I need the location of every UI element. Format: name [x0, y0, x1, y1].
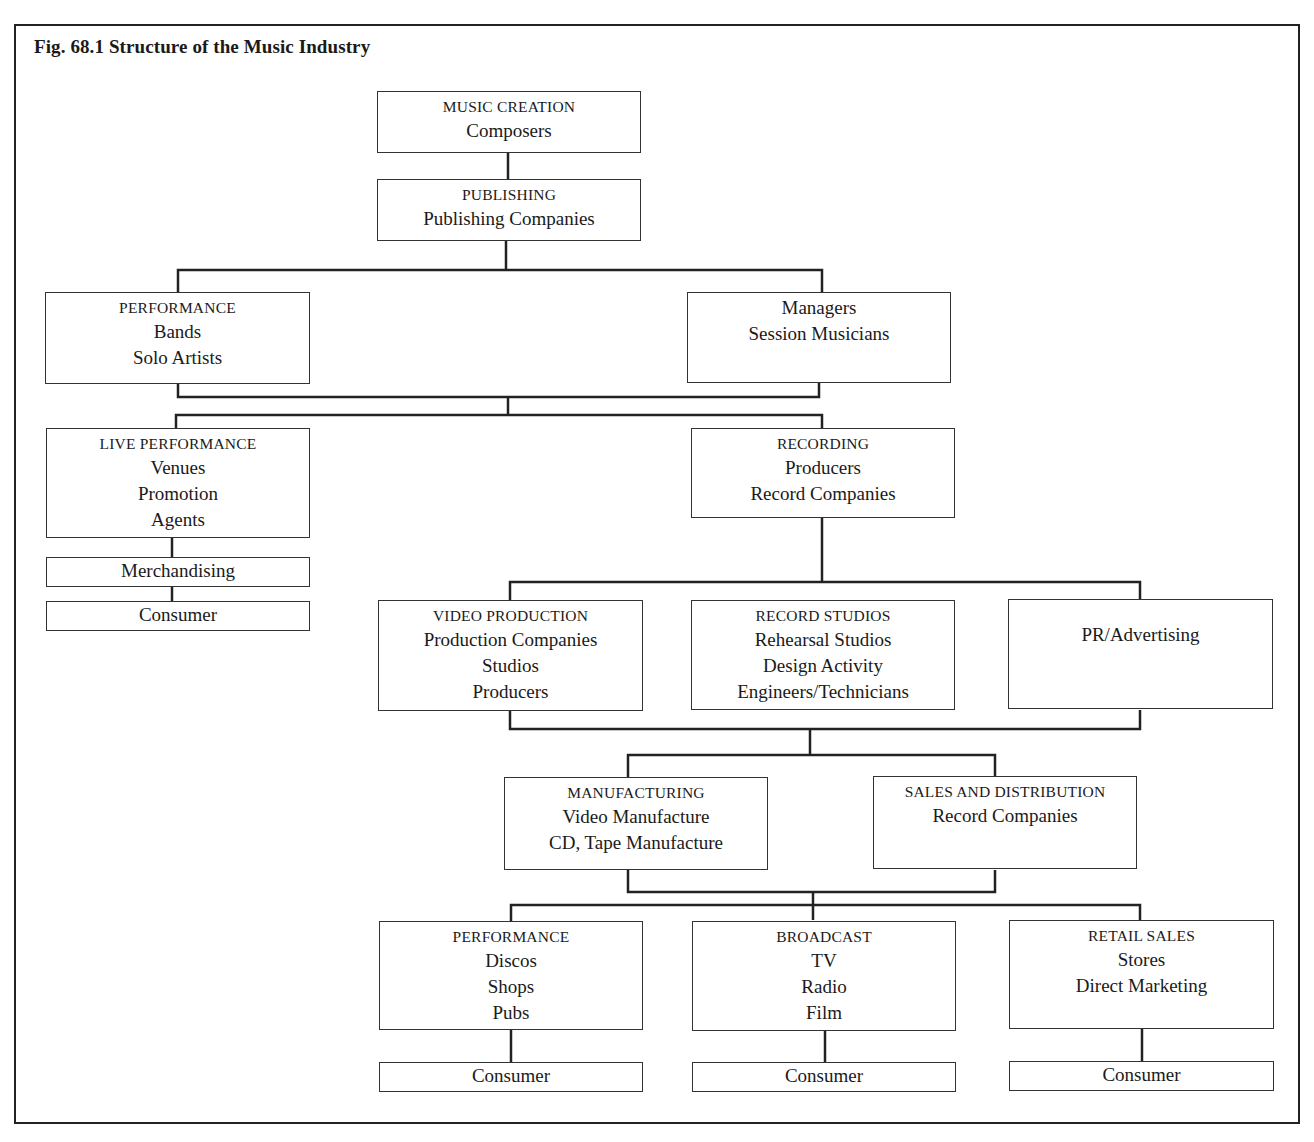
node-item: Pubs [380, 1000, 642, 1026]
node-retail-sales: RETAIL SALES Stores Direct Marketing [1009, 920, 1274, 1029]
node-item: Consumer [693, 1063, 955, 1089]
node-manufacturing: MANUFACTURING Video Manufacture CD, Tape… [504, 777, 768, 870]
node-performance-venues: PERFORMANCE Discos Shops Pubs [379, 921, 643, 1030]
node-item: Direct Marketing [1010, 973, 1273, 999]
node-performance-artists: PERFORMANCE Bands Solo Artists [45, 292, 310, 384]
node-heading: PERFORMANCE [46, 297, 309, 319]
node-item: Consumer [380, 1063, 642, 1089]
node-video-production: VIDEO PRODUCTION Production Companies St… [378, 600, 643, 711]
node-consumer-live: Consumer [46, 601, 310, 631]
node-heading: MANUFACTURING [505, 782, 767, 804]
node-heading: SALES AND DISTRIBUTION [874, 781, 1136, 803]
node-record-studios: RECORD STUDIOS Rehearsal Studios Design … [691, 600, 955, 710]
node-recording: RECORDING Producers Record Companies [691, 428, 955, 518]
node-item: Session Musicians [688, 321, 950, 347]
node-broadcast: BROADCAST TV Radio Film [692, 921, 956, 1031]
node-heading: VIDEO PRODUCTION [379, 605, 642, 627]
node-item: Consumer [1010, 1062, 1273, 1088]
node-item: Venues [47, 455, 309, 481]
node-heading: PERFORMANCE [380, 926, 642, 948]
node-item: Agents [47, 507, 309, 533]
node-item: Record Companies [692, 481, 954, 507]
node-sales-distribution: SALES AND DISTRIBUTION Record Companies [873, 776, 1137, 869]
node-heading: RECORD STUDIOS [692, 605, 954, 627]
node-item: Solo Artists [46, 345, 309, 371]
node-consumer-performance: Consumer [379, 1062, 643, 1092]
node-item: Bands [46, 319, 309, 345]
node-item: Radio [693, 974, 955, 1000]
node-heading: MUSIC CREATION [378, 96, 640, 118]
node-item: Record Companies [874, 803, 1136, 829]
node-item: PR/Advertising [1009, 622, 1272, 648]
node-item: Rehearsal Studios [692, 627, 954, 653]
node-music-creation: MUSIC CREATION Composers [377, 91, 641, 153]
node-item: Discos [380, 948, 642, 974]
node-item: Production Companies [379, 627, 642, 653]
node-item: Shops [380, 974, 642, 1000]
node-item: Managers [688, 295, 950, 321]
node-merchandising: Merchandising [46, 557, 310, 587]
node-item: CD, Tape Manufacture [505, 830, 767, 856]
node-item: Consumer [47, 602, 309, 628]
node-item: Engineers/Technicians [692, 679, 954, 705]
node-consumer-broadcast: Consumer [692, 1062, 956, 1092]
node-item: Design Activity [692, 653, 954, 679]
node-item: Video Manufacture [505, 804, 767, 830]
node-publishing: PUBLISHING Publishing Companies [377, 179, 641, 241]
node-item: Stores [1010, 947, 1273, 973]
node-heading: RECORDING [692, 433, 954, 455]
node-item: Producers [379, 679, 642, 705]
node-heading: LIVE PERFORMANCE [47, 433, 309, 455]
node-consumer-retail: Consumer [1009, 1061, 1274, 1091]
node-heading: BROADCAST [693, 926, 955, 948]
node-item: Producers [692, 455, 954, 481]
node-heading: RETAIL SALES [1010, 925, 1273, 947]
node-item: TV [693, 948, 955, 974]
node-item: Composers [378, 118, 640, 144]
node-pr-advertising: PR/Advertising [1008, 599, 1273, 709]
node-item: Publishing Companies [378, 206, 640, 232]
node-item: Merchandising [47, 558, 309, 584]
node-live-performance: LIVE PERFORMANCE Venues Promotion Agents [46, 428, 310, 538]
node-item: Studios [379, 653, 642, 679]
node-heading: PUBLISHING [378, 184, 640, 206]
node-managers: Managers Session Musicians [687, 292, 951, 383]
node-item: Promotion [47, 481, 309, 507]
node-item: Film [693, 1000, 955, 1026]
